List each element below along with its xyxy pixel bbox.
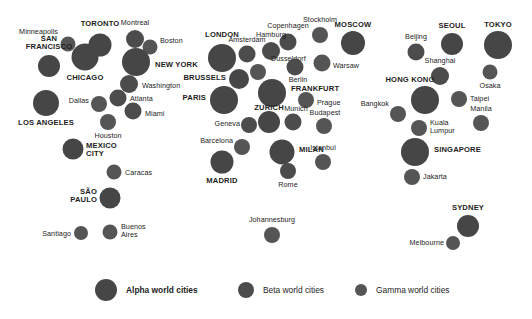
city-label: Osaka (479, 82, 500, 90)
city-marker[interactable] (484, 31, 512, 59)
city-marker[interactable] (229, 69, 249, 89)
city-label: Shanghai (425, 57, 456, 65)
city-label: FRANKFURT (291, 85, 339, 93)
city-label: Beijing (405, 33, 427, 41)
city-marker[interactable] (241, 117, 257, 133)
city-label: TOKYO (484, 21, 512, 29)
city-marker[interactable] (473, 115, 489, 131)
city-marker[interactable] (239, 46, 256, 63)
city-marker[interactable] (270, 140, 295, 165)
city-label: MEXICOCITY (86, 142, 117, 158)
city-marker[interactable] (316, 118, 332, 134)
city-marker[interactable] (63, 139, 84, 160)
legend-item-alpha[interactable]: Alpha world cities (95, 279, 198, 301)
city-label: LOS ANGELES (18, 119, 74, 127)
legend-label: Beta world cities (263, 285, 324, 295)
city-marker[interactable] (287, 59, 304, 76)
city-label: Taipei (470, 95, 489, 103)
city-marker[interactable] (411, 86, 439, 114)
city-marker[interactable] (401, 138, 429, 166)
city-marker[interactable] (314, 55, 331, 72)
city-label: SYDNEY (452, 204, 484, 212)
city-label: Barcelona (200, 137, 233, 145)
city-marker[interactable] (72, 44, 99, 71)
city-marker[interactable] (110, 90, 127, 107)
city-label: Johannesburg (249, 216, 295, 224)
city-label: SÃOPAULO (70, 188, 97, 204)
city-label: Santiago (42, 230, 71, 238)
city-label: BuenosAires (121, 223, 146, 239)
city-label: Caracas (125, 169, 152, 177)
city-label: SEOUL (439, 22, 466, 30)
city-marker[interactable] (210, 86, 238, 114)
city-label: Budapest (310, 109, 341, 117)
city-marker[interactable] (74, 226, 88, 240)
city-marker[interactable] (441, 33, 463, 55)
world-cities-figure: MinneapolisTORONTOMontrealBostonSANFRANC… (0, 0, 532, 319)
city-marker[interactable] (208, 44, 236, 72)
city-label: Stockholm (303, 16, 337, 24)
city-label: MADRID (206, 177, 237, 185)
legend-label: Alpha world cities (126, 285, 198, 295)
city-label: NEW YORK (155, 61, 198, 69)
city-marker[interactable] (404, 169, 420, 185)
city-marker[interactable] (315, 154, 331, 170)
city-label: Istanbul (310, 144, 336, 152)
city-marker[interactable] (411, 120, 427, 136)
city-label: BRUSSELS (183, 74, 226, 82)
city-marker[interactable] (100, 188, 121, 209)
city-marker[interactable] (38, 55, 60, 77)
city-label: Bangkok (361, 100, 389, 108)
city-label: HONG KONG (385, 76, 434, 84)
legend-swatch-alpha-icon (95, 279, 117, 301)
city-label: SANFRANCISCO (26, 35, 73, 51)
city-marker[interactable] (285, 114, 302, 131)
legend-swatch-beta-icon (238, 282, 254, 298)
city-label: Munich (284, 105, 307, 113)
city-label: Prague (317, 99, 340, 107)
city-label: Washington (142, 82, 180, 90)
city-marker[interactable] (258, 111, 280, 133)
city-marker[interactable] (126, 30, 144, 48)
city-marker[interactable] (312, 27, 328, 43)
city-label: Warsaw (333, 62, 359, 70)
city-label: Montreal (121, 19, 149, 27)
city-marker[interactable] (122, 48, 150, 76)
legend-label: Gamma world cities (376, 285, 450, 295)
city-marker[interactable] (234, 139, 250, 155)
city-marker[interactable] (107, 165, 122, 180)
legend-item-gamma[interactable]: Gamma world cities (355, 284, 450, 296)
city-label: KualaLumpur (430, 119, 455, 135)
city-marker[interactable] (446, 236, 460, 250)
city-marker[interactable] (103, 225, 118, 240)
city-label: Dallas (69, 97, 89, 105)
city-marker[interactable] (280, 163, 296, 179)
city-label: Miami (145, 110, 164, 118)
legend-item-beta[interactable]: Beta world cities (238, 282, 324, 298)
city-marker[interactable] (457, 215, 479, 237)
legend-swatch-gamma-icon (355, 284, 367, 296)
city-label: Houston (94, 132, 121, 140)
city-marker[interactable] (483, 65, 498, 80)
city-marker[interactable] (33, 90, 59, 116)
chart-legend: Alpha world citiesBeta world citiesGamma… (0, 268, 532, 319)
city-marker[interactable] (91, 96, 107, 112)
city-label: Geneva (215, 120, 240, 128)
city-label: TORONTO (81, 20, 120, 28)
city-marker[interactable] (211, 151, 234, 174)
city-marker[interactable] (125, 103, 142, 120)
city-label: SINGAPORE (434, 146, 481, 154)
city-marker[interactable] (341, 31, 365, 55)
city-marker[interactable] (264, 227, 280, 243)
city-label: CHICAGO (67, 74, 104, 82)
city-label: Rome (278, 181, 297, 189)
city-marker[interactable] (250, 64, 266, 80)
city-label: Melbourne (410, 239, 444, 247)
city-label: Jakarta (423, 173, 447, 181)
city-scatter-plot: MinneapolisTORONTOMontrealBostonSANFRANC… (0, 0, 532, 268)
city-marker[interactable] (100, 114, 116, 130)
city-marker[interactable] (451, 91, 467, 107)
city-marker[interactable] (390, 106, 406, 122)
city-label: Manila (470, 105, 491, 113)
city-marker[interactable] (408, 44, 425, 61)
